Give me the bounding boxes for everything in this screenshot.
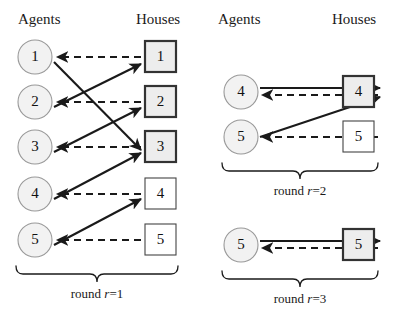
rounds-diagram: Agents Houses 1 2 [0,0,400,320]
agents-round-2: 4 5 [224,75,258,154]
house-node[interactable]: 4 [145,178,176,209]
house-label: 5 [157,231,165,247]
agent-label: 3 [31,138,39,154]
house-node[interactable]: 5 [145,224,176,255]
round-label-2: round r=2 [274,183,327,198]
agents-header-round-2: Agents [218,11,261,27]
agent-node[interactable]: 4 [18,177,52,211]
house-node[interactable]: 3 [145,131,176,162]
agent-label: 5 [237,128,245,144]
round-label-1: round r=1 [71,286,124,301]
house-label: 5 [355,128,363,144]
house-node[interactable]: 2 [145,86,176,117]
panel-round-2: Agents Houses 4 5 4 [218,11,380,198]
house-node[interactable]: 5 [343,121,374,152]
agent-node[interactable]: 5 [224,228,258,262]
agent-label: 4 [237,83,245,99]
houses-header-round-2: Houses [332,11,376,27]
agent-label: 4 [31,185,39,201]
agent-node[interactable]: 5 [224,120,258,154]
house-label: 2 [157,93,165,109]
brace-round-3 [222,271,378,287]
agents-round-1: 1 2 3 4 5 [18,40,52,257]
agent-node[interactable]: 2 [18,85,52,119]
round-label-3: round r=3 [274,291,327,306]
agent-label: 1 [31,48,39,64]
house-node[interactable]: 1 [145,41,176,72]
solid-edge-agent4-house3 [54,153,141,199]
agents-header-round-1: Agents [18,11,61,27]
agent-label: 5 [237,236,245,252]
house-label: 5 [355,236,363,252]
house-label: 1 [157,48,165,64]
agent-node[interactable]: 3 [18,130,52,164]
solid-edge-agent2-house1 [54,64,141,107]
agent-label: 2 [31,93,39,109]
houses-round-2: 4 5 [343,76,374,152]
house-label: 3 [157,138,165,154]
brace-round-1 [16,266,178,282]
panel-round-1: Agents Houses 1 2 [16,11,180,301]
houses-round-1: 1 2 3 4 5 [145,41,176,255]
solid-edge-agent5-house4 [54,199,141,245]
house-node[interactable]: 4 [343,76,374,107]
agent-node[interactable]: 5 [18,223,52,257]
agent-node[interactable]: 4 [224,75,258,109]
solid-edge-agent3-house2 [54,108,141,152]
house-label: 4 [157,185,165,201]
houses-header-round-1: Houses [136,11,180,27]
house-node[interactable]: 5 [343,229,374,260]
panel-round-3: 5 5 round r=3 [222,228,380,306]
brace-round-2 [222,163,378,179]
agent-label: 5 [31,231,39,247]
agent-node[interactable]: 1 [18,40,52,74]
houses-round-3: 5 [343,229,374,260]
solid-edges-round-1 [54,62,141,245]
agents-round-3: 5 [224,228,258,262]
solid-edge-agent1-house3 [54,62,141,150]
house-label: 4 [355,83,363,99]
